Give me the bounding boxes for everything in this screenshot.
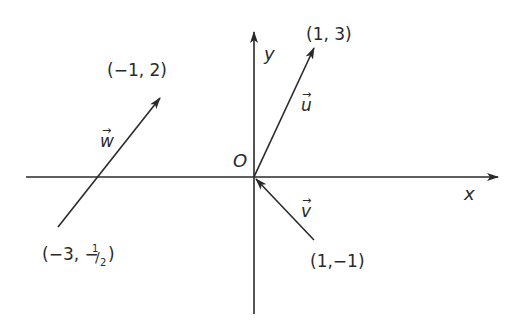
vector-w-label: w → [100, 124, 114, 151]
vector-u-label: u → [301, 88, 312, 115]
vector-diagram: x y O u → w → v → (1, 3) (−1, 2) (1,−1) … [0, 0, 516, 326]
y-axis-label: y [263, 43, 275, 64]
point-label-w-tail: (−3, − 1 / 2 ) [42, 243, 115, 268]
svg-text:2: 2 [100, 257, 106, 268]
point-label-v-tail: (1,−1) [310, 251, 365, 271]
point-label-u-head: (1, 3) [306, 24, 352, 44]
vector-arrow-icon: → [302, 194, 311, 207]
diagram-canvas: x y O u → w → v → (1, 3) (−1, 2) (1,−1) … [0, 0, 516, 326]
vector-v-label: v → [301, 194, 312, 221]
origin-label: O [233, 150, 247, 171]
vector-w-arrow [58, 98, 160, 227]
point-label-w-head: (−1, 2) [107, 60, 167, 80]
svg-text:): ) [108, 244, 115, 264]
svg-text:(−3, −: (−3, − [42, 244, 99, 264]
vector-arrow-icon: → [102, 124, 111, 137]
x-axis-label: x [463, 183, 475, 204]
vector-arrow-icon: → [302, 88, 311, 101]
